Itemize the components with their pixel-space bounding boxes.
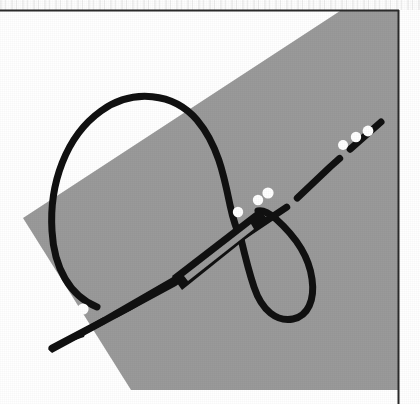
- dot-upper-3: [363, 126, 374, 137]
- dot-upper-2: [351, 132, 361, 142]
- dot-lower-1: [61, 312, 71, 322]
- dot-mid-2: [253, 195, 263, 205]
- dot-mid-3: [262, 187, 273, 198]
- dot-upper-1: [338, 140, 348, 150]
- stitch-diagram: [0, 0, 420, 404]
- dot-lower-2: [77, 303, 88, 314]
- dot-mid-1: [233, 207, 243, 217]
- figure-container: Needle and thread stitch diagram Scanned…: [0, 0, 420, 404]
